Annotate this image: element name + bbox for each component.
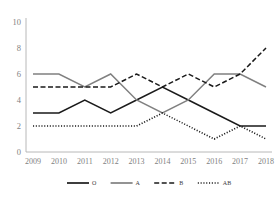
legend-label-o: O [92,180,97,186]
x-tick-label: 2013 [129,157,145,166]
chart-legend: OABAB [67,180,231,186]
series-line-b [33,48,266,87]
legend-label-b: B [179,180,183,186]
x-tick-label: 2015 [180,157,196,166]
x-tick-label: 2009 [25,157,41,166]
x-tick-label: 2011 [77,157,93,166]
x-tick-labels: 2009201020112012201320142015201620172018 [25,157,274,166]
x-tick-label: 2014 [154,157,170,166]
x-tick-label: 2010 [51,157,67,166]
series-line-ab [33,113,266,139]
x-tick-label: 2012 [103,157,119,166]
series-lines [33,48,266,139]
x-tick-label: 2018 [258,157,274,166]
y-tick-label: 6 [17,69,21,79]
legend-label-a: A [136,180,141,186]
x-tick-label: 2017 [232,157,248,166]
y-tick-labels: 0246810 [13,17,22,157]
y-tick-label: 8 [17,43,21,53]
y-tick-label: 10 [13,17,22,27]
line-chart: 0246810 20092010201120122013201420152016… [0,0,278,198]
y-tick-label: 4 [17,95,22,105]
y-tick-label: 2 [17,121,21,131]
legend-label-ab: AB [223,180,231,186]
x-tick-label: 2016 [206,157,222,166]
y-tick-label: 0 [17,147,21,157]
chart-canvas: 0246810 20092010201120122013201420152016… [0,0,278,198]
